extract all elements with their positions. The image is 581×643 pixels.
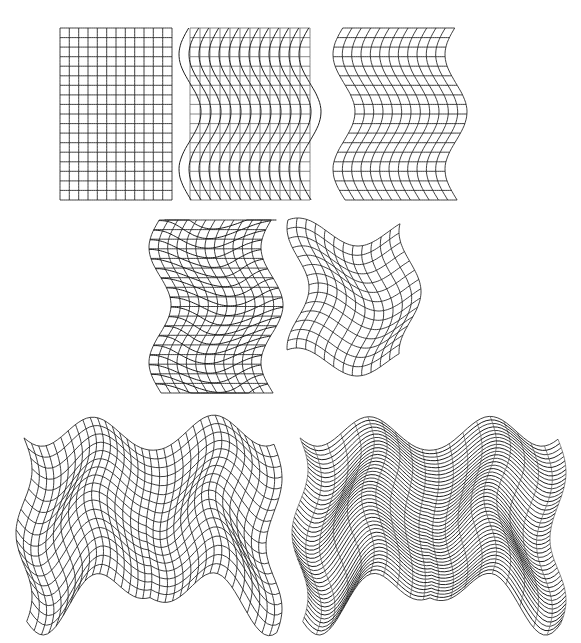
grid-vertical-line [160, 448, 168, 602]
grid-horizontal-line [32, 555, 282, 616]
wavy-line-field-panel [292, 416, 566, 635]
grid-horizontal-line [21, 474, 271, 524]
grid-vertical-line [84, 417, 97, 575]
regular-grid-panel [60, 28, 172, 200]
dense-warped-mesh-panel [16, 415, 282, 636]
grid-horizontal-line [288, 218, 400, 246]
grid-vertical-line [287, 220, 309, 350]
grid-vertical-line [146, 450, 152, 598]
grid-horizontal-line [303, 423, 561, 457]
doubly-warped-grid-panel [287, 218, 421, 376]
horizontally-warped-grid-panel [333, 28, 467, 200]
grid-with-wavy-verticals-panel [179, 28, 321, 200]
warped-grid-figure [0, 0, 581, 643]
grid-horizontal-line [30, 564, 280, 626]
warped-grid-with-wavy-horizontals-panel [149, 220, 283, 393]
grid-vertical-line [16, 438, 32, 622]
grid-horizontal-line [31, 449, 281, 491]
grid-horizontal-line [300, 416, 558, 450]
grid-vertical-line [195, 420, 207, 577]
grid-horizontal-line [30, 536, 280, 596]
grid-vertical-line [153, 450, 160, 601]
grid-horizontal-line [28, 424, 278, 459]
